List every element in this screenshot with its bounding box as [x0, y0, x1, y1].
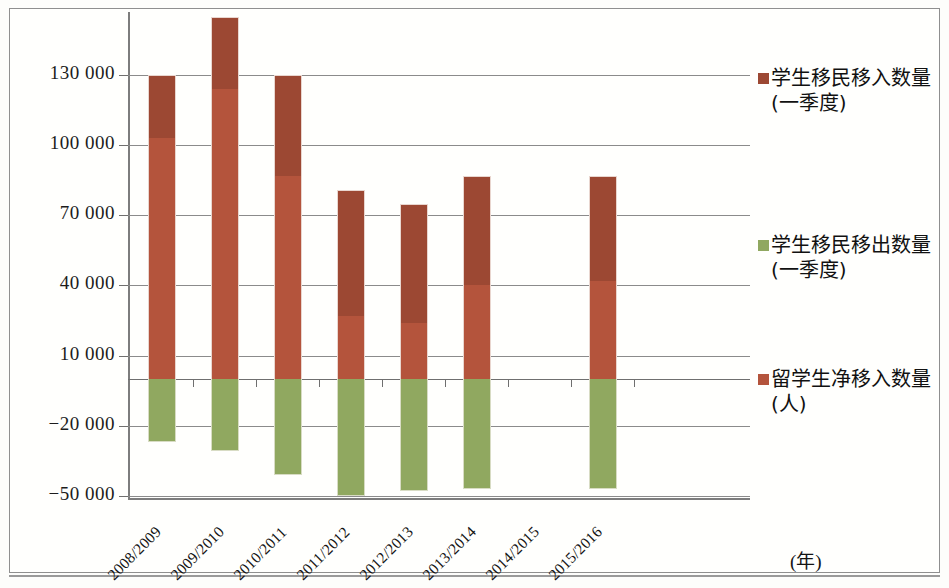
legend-item[interactable]: 学生移民移入数量(一季度) [758, 66, 931, 116]
y-tick-mark [119, 75, 128, 76]
x-axis-unit-label: (年) [790, 546, 822, 573]
y-tick-label: 10 000 [3, 343, 115, 365]
legend-label-line1: 学生移民移出数量 [771, 233, 931, 258]
bar-group[interactable] [211, 12, 239, 499]
bar-group[interactable] [463, 12, 491, 499]
bar-segment-outflow[interactable] [463, 379, 491, 489]
bar-segment-inflow[interactable] [148, 75, 176, 138]
x-tick-mark [508, 379, 509, 387]
y-tick-label: 40 000 [3, 272, 115, 294]
bar-segment-net-inflow[interactable] [211, 89, 239, 379]
bar-segment-outflow[interactable] [337, 379, 365, 496]
y-tick-label: −20 000 [3, 413, 115, 435]
bar-segment-net-inflow[interactable] [148, 138, 176, 379]
chart-page: 130 000100 00070 00040 00010 000−20 000−… [0, 0, 949, 588]
bar-segment-inflow[interactable] [211, 17, 239, 89]
legend-color-swatch [758, 240, 769, 251]
x-tick-mark [571, 379, 572, 387]
bar-group[interactable] [337, 12, 365, 499]
bar-segment-net-inflow[interactable] [463, 285, 491, 379]
bar-segment-outflow[interactable] [589, 379, 617, 489]
legend-item[interactable]: 留学生净移入数量(人) [758, 367, 931, 417]
legend-label: 学生移民移入数量(一季度) [771, 66, 931, 116]
bar-segment-inflow[interactable] [589, 176, 617, 281]
y-tick-mark [119, 285, 128, 286]
bar-segment-inflow[interactable] [274, 75, 302, 176]
bar-segment-inflow[interactable] [400, 204, 428, 323]
bar-group[interactable] [400, 12, 428, 499]
y-tick-label: 100 000 [3, 132, 115, 154]
figure-bottom-rule [9, 575, 940, 577]
legend-label: 留学生净移入数量(人) [771, 367, 931, 417]
y-tick-mark [119, 356, 128, 357]
bar-segment-outflow[interactable] [211, 379, 239, 451]
legend-color-swatch [758, 73, 769, 84]
bar-group[interactable] [148, 12, 176, 499]
bar-segment-net-inflow[interactable] [589, 281, 617, 379]
bar-segment-net-inflow[interactable] [400, 323, 428, 379]
bar-group[interactable] [274, 12, 302, 499]
legend-label-line1: 学生移民移入数量 [771, 66, 931, 91]
y-tick-label: −50 000 [3, 483, 115, 505]
legend-label-line2: (人) [771, 392, 931, 417]
y-tick-label: 70 000 [3, 202, 115, 224]
x-tick-mark [256, 379, 257, 387]
bar-segment-outflow[interactable] [148, 379, 176, 442]
legend-label-line1: 留学生净移入数量 [771, 367, 931, 392]
legend-label-line2: (一季度) [771, 91, 931, 116]
x-tick-mark [634, 379, 635, 387]
bar-segment-net-inflow[interactable] [274, 176, 302, 379]
y-tick-mark [119, 215, 128, 216]
bar-segment-inflow[interactable] [463, 176, 491, 286]
x-tick-mark [319, 379, 320, 387]
plot-area [128, 12, 750, 499]
legend-label-line2: (一季度) [771, 258, 931, 283]
legend-item[interactable]: 学生移民移出数量(一季度) [758, 233, 931, 283]
y-tick-label: 130 000 [3, 62, 115, 84]
legend-label: 学生移民移出数量(一季度) [771, 233, 931, 283]
legend-color-swatch [758, 374, 769, 385]
x-tick-mark [193, 379, 194, 387]
x-tick-mark [382, 379, 383, 387]
y-tick-mark [119, 426, 128, 427]
y-tick-mark [119, 145, 128, 146]
bar-group[interactable] [589, 12, 617, 499]
x-tick-mark [445, 379, 446, 387]
bar-segment-inflow[interactable] [337, 190, 365, 316]
bar-segment-outflow[interactable] [400, 379, 428, 491]
y-tick-mark [119, 496, 128, 497]
bar-segment-net-inflow[interactable] [337, 316, 365, 379]
bar-segment-outflow[interactable] [274, 379, 302, 475]
